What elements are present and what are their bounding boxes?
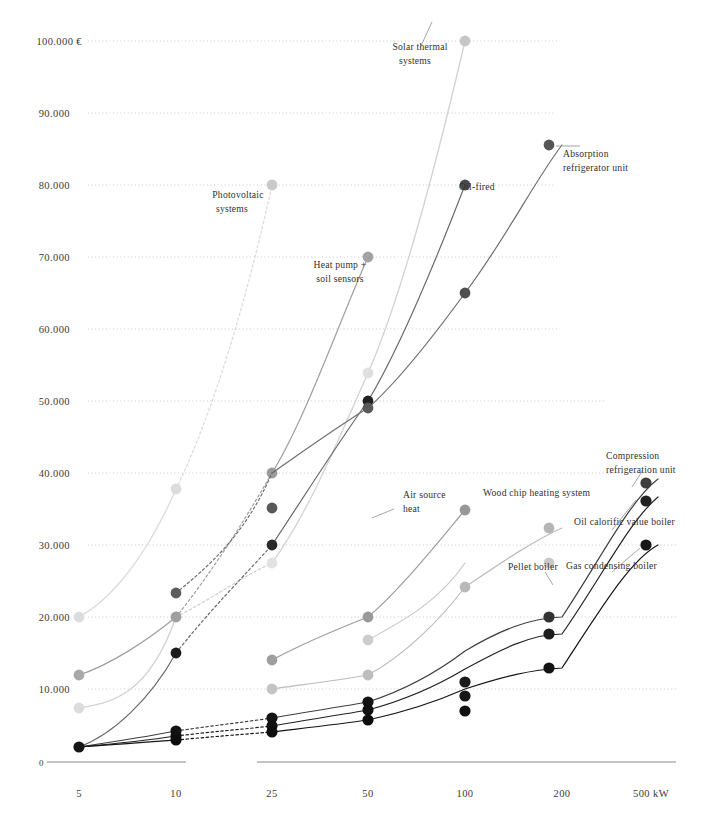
y-tick-0: 0 xyxy=(39,758,44,768)
data-point[interactable] xyxy=(640,495,651,506)
data-point[interactable] xyxy=(267,180,278,191)
data-point[interactable] xyxy=(459,690,470,701)
data-point[interactable] xyxy=(363,403,374,414)
label-airsource-line1: Air source xyxy=(403,489,446,500)
data-point[interactable] xyxy=(640,539,651,550)
data-point[interactable] xyxy=(363,635,374,646)
label-photovoltaic-line1: Photovoltaic xyxy=(212,189,264,200)
data-point[interactable] xyxy=(544,140,555,151)
curve-segment xyxy=(79,731,176,747)
y-tick-20000: 20.000 xyxy=(39,612,70,623)
data-point[interactable] xyxy=(267,684,278,695)
data-point[interactable] xyxy=(171,484,182,495)
curve-segment xyxy=(79,617,176,708)
curve-segment-break xyxy=(176,563,272,617)
label-oilcalorific: Oil calorific value boiler xyxy=(574,516,676,527)
y-tick-10000: 10.000 xyxy=(39,684,70,695)
curve-segment-break xyxy=(176,473,272,593)
label-solar-line2: systems xyxy=(399,55,431,66)
y-tick-50000: 50.000 xyxy=(39,396,70,407)
y-tick-90000: 90.000 xyxy=(39,108,70,119)
y-tick-80000: 80.000 xyxy=(39,180,70,191)
y-tick-70000: 70.000 xyxy=(39,252,70,263)
curve-segment xyxy=(368,563,465,640)
data-point[interactable] xyxy=(171,612,182,623)
data-point[interactable] xyxy=(267,558,278,569)
annotation-leaders xyxy=(372,22,643,585)
curve-segment xyxy=(79,617,176,675)
curve-segment xyxy=(79,489,176,617)
series-heat-pump-soil-sensors[interactable] xyxy=(74,252,374,681)
label-oil-fired: Oil-fired xyxy=(459,181,495,192)
x-tick-10: 10 xyxy=(170,788,181,799)
annotation-labels: Photovoltaic systems Solar thermal syste… xyxy=(212,41,676,572)
curve-segment-break xyxy=(176,718,272,731)
label-compression-line2: refrigeration unit xyxy=(606,464,676,475)
label-compression-line1: Compression xyxy=(606,450,659,461)
data-point[interactable] xyxy=(267,503,278,514)
y-axis-labels: 100.000 € 90.000 80.000 70.000 60.000 50… xyxy=(36,36,82,768)
x-tick-200: 200 xyxy=(554,788,571,799)
y-tick-100000: 100.000 € xyxy=(36,36,82,47)
curve-segment xyxy=(272,528,562,689)
data-point[interactable] xyxy=(362,704,373,715)
data-point[interactable] xyxy=(171,588,182,599)
data-point[interactable] xyxy=(460,582,471,593)
series-wood-chip-heating-system[interactable] xyxy=(267,523,562,695)
data-point[interactable] xyxy=(460,505,471,516)
label-absorption-line2: refrigerator unit xyxy=(563,162,628,173)
x-tick-5: 5 xyxy=(76,788,82,799)
data-point[interactable] xyxy=(171,648,182,659)
data-point[interactable] xyxy=(363,612,374,623)
series-solar-thermal-systems[interactable] xyxy=(74,36,471,714)
data-point[interactable] xyxy=(363,670,374,681)
leader-air-source xyxy=(372,509,394,518)
label-pellet: Pellet boiler xyxy=(508,561,558,572)
data-point[interactable] xyxy=(362,714,373,725)
label-gascondensing: Gas condensing boiler xyxy=(566,560,658,571)
label-heatpump-line2: soil sensors xyxy=(316,273,364,284)
x-tick-25: 25 xyxy=(266,788,277,799)
data-point[interactable] xyxy=(170,734,181,745)
label-photovoltaic-line2: systems xyxy=(216,203,248,214)
data-point[interactable] xyxy=(543,628,554,639)
data-point[interactable] xyxy=(267,540,278,551)
cost-comparison-chart: 100.000 € 90.000 80.000 70.000 60.000 50… xyxy=(0,0,708,822)
data-point[interactable] xyxy=(74,670,85,681)
y-tick-30000: 30.000 xyxy=(39,540,70,551)
x-axis-labels: 5 10 25 50 100 200 500 kW xyxy=(76,788,669,799)
data-point[interactable] xyxy=(267,655,278,666)
curve-segment-break xyxy=(176,732,272,740)
curve-segment xyxy=(272,145,562,473)
data-point[interactable] xyxy=(544,523,555,534)
curve-segment xyxy=(79,653,176,747)
data-point[interactable] xyxy=(363,368,374,379)
x-tick-500: 500 kW xyxy=(633,788,669,799)
label-woodchip: Wood chip heating system xyxy=(483,487,591,498)
data-point[interactable] xyxy=(460,36,471,47)
data-point[interactable] xyxy=(266,726,277,737)
curve-segment xyxy=(272,257,368,473)
y-tick-40000: 40.000 xyxy=(39,468,70,479)
label-heatpump-line1: Heat pump + xyxy=(314,259,367,270)
label-absorption-line1: Absorption xyxy=(563,148,609,159)
y-tick-60000: 60.000 xyxy=(39,324,70,335)
data-point[interactable] xyxy=(459,705,470,716)
x-tick-50: 50 xyxy=(362,788,373,799)
x-tick-100: 100 xyxy=(457,788,474,799)
data-point[interactable] xyxy=(460,288,471,299)
curve-segment xyxy=(272,41,465,563)
data-point[interactable] xyxy=(74,612,85,623)
curve-segment-break xyxy=(176,726,272,736)
data-point[interactable] xyxy=(459,676,470,687)
data-point[interactable] xyxy=(74,703,85,714)
curve-segment xyxy=(272,545,658,732)
chart-canvas: 100.000 € 90.000 80.000 70.000 60.000 50… xyxy=(0,0,708,822)
leader-pellet xyxy=(545,572,553,585)
data-point[interactable] xyxy=(543,611,554,622)
label-solar-line1: Solar thermal xyxy=(392,41,447,52)
data-point[interactable] xyxy=(543,662,554,673)
label-airsource-line2: heat xyxy=(403,503,420,514)
data-point[interactable] xyxy=(640,477,651,488)
curve-segment-break xyxy=(176,185,272,489)
